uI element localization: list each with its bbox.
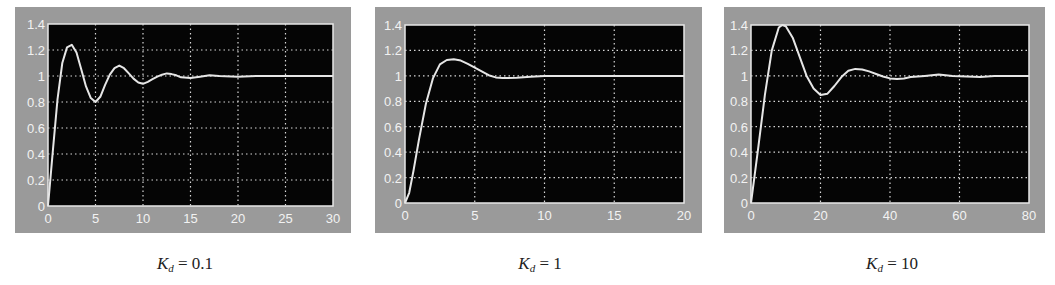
svg-text:30: 30 <box>326 211 340 226</box>
svg-text:0.6: 0.6 <box>27 121 45 136</box>
caption-variable: K <box>157 254 168 273</box>
svg-text:1.4: 1.4 <box>384 18 402 33</box>
svg-text:1.4: 1.4 <box>27 17 45 32</box>
svg-text:15: 15 <box>183 211 197 226</box>
chart-svg: 00.20.40.60.811.21.4020406080 <box>724 7 1045 233</box>
caption-variable: K <box>518 254 529 273</box>
caption-kd-1: Kd = 1 <box>518 254 561 274</box>
x-tick-labels: 051015202530 <box>44 211 340 226</box>
y-tick-labels: 00.20.40.60.811.21.4 <box>27 17 45 214</box>
svg-text:0.2: 0.2 <box>27 173 45 188</box>
caption-kd-10: Kd = 10 <box>866 254 918 274</box>
svg-text:0.2: 0.2 <box>384 171 402 186</box>
y-tick-labels: 00.20.40.60.811.21.4 <box>730 18 748 211</box>
svg-text:1.4: 1.4 <box>730 18 748 33</box>
svg-text:80: 80 <box>1022 208 1036 223</box>
svg-text:0: 0 <box>44 211 51 226</box>
svg-text:1: 1 <box>395 69 402 84</box>
svg-text:1: 1 <box>38 69 45 84</box>
svg-text:5: 5 <box>471 208 478 223</box>
svg-text:0.2: 0.2 <box>730 171 748 186</box>
svg-text:0.4: 0.4 <box>27 147 45 162</box>
svg-text:0: 0 <box>747 208 754 223</box>
chart-svg: 00.20.40.60.811.21.4051015202530 <box>15 7 351 233</box>
svg-text:25: 25 <box>278 211 292 226</box>
caption-value: = 0.1 <box>174 254 213 273</box>
svg-text:1.2: 1.2 <box>730 43 748 58</box>
svg-text:60: 60 <box>952 208 966 223</box>
svg-text:5: 5 <box>92 211 99 226</box>
svg-text:0.8: 0.8 <box>27 95 45 110</box>
chart-svg: 00.20.40.60.811.21.405101520 <box>375 7 702 233</box>
svg-text:0.4: 0.4 <box>730 145 748 160</box>
svg-text:1: 1 <box>741 69 748 84</box>
svg-text:0.4: 0.4 <box>384 145 402 160</box>
svg-text:0: 0 <box>401 208 408 223</box>
svg-text:20: 20 <box>231 211 245 226</box>
caption-kd-0-1: Kd = 0.1 <box>157 254 213 274</box>
chart-panel-kd-1: 00.20.40.60.811.21.405101520 <box>375 7 702 233</box>
x-tick-labels: 020406080 <box>747 208 1036 223</box>
plot-area <box>751 25 1029 203</box>
y-tick-labels: 00.20.40.60.811.21.4 <box>384 18 402 211</box>
svg-text:1.2: 1.2 <box>384 43 402 58</box>
svg-text:0.8: 0.8 <box>730 94 748 109</box>
svg-text:20: 20 <box>813 208 827 223</box>
svg-text:10: 10 <box>537 208 551 223</box>
chart-panel-kd-10: 00.20.40.60.811.21.4020406080 <box>724 7 1045 233</box>
svg-text:0.6: 0.6 <box>384 120 402 135</box>
svg-text:10: 10 <box>136 211 150 226</box>
chart-panel-kd-0-1: 00.20.40.60.811.21.4051015202530 <box>15 7 351 233</box>
svg-text:0.8: 0.8 <box>384 94 402 109</box>
svg-text:15: 15 <box>607 208 621 223</box>
svg-text:40: 40 <box>883 208 897 223</box>
caption-variable: K <box>866 254 877 273</box>
caption-value: = 1 <box>535 254 562 273</box>
svg-text:1.2: 1.2 <box>27 43 45 58</box>
svg-text:0.6: 0.6 <box>730 120 748 135</box>
plot-area <box>405 25 684 203</box>
caption-value: = 10 <box>883 254 918 273</box>
svg-text:20: 20 <box>677 208 691 223</box>
x-tick-labels: 05101520 <box>401 208 691 223</box>
